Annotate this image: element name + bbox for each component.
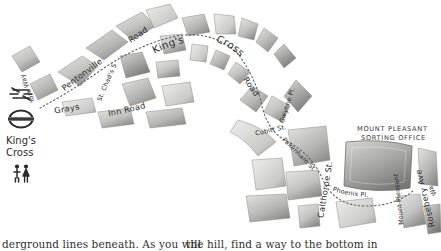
- block-mount-pleasant-sorting-office: [344, 141, 412, 191]
- block-cluster-northwest: [12, 4, 178, 100]
- caption-column-a: derground lines beneath. As you will: [2, 238, 201, 251]
- sorting-office-label-line2: SORTING OFFICE: [361, 134, 426, 142]
- block-cluster-graysinn: [62, 78, 194, 128]
- station-label-line1: King's: [6, 135, 36, 146]
- station-label-line2: Cross: [6, 147, 33, 158]
- hand-drawn-map-figure: York Way Pentonville Road Grays Inn Road…: [0, 0, 441, 251]
- underground-roundel-icon: [8, 111, 34, 128]
- point-of-interest-labels: MOUNT PLEASANT SORTING OFFICE: [357, 125, 428, 142]
- toilets-icon: [14, 165, 29, 183]
- national-rail-icon: [10, 88, 32, 100]
- page-caption: derground lines beneath. As you will the…: [0, 238, 441, 251]
- sorting-office-label-line1: MOUNT PLEASANT: [357, 125, 428, 133]
- block-cluster-phoenix-south: [246, 194, 320, 228]
- street-label-cubitt-st: Cubitt St.: [255, 123, 288, 138]
- caption-column-b: the hill, find a way to the bottom in: [186, 238, 378, 251]
- map-canvas: York Way Pentonville Road Grays Inn Road…: [0, 0, 441, 251]
